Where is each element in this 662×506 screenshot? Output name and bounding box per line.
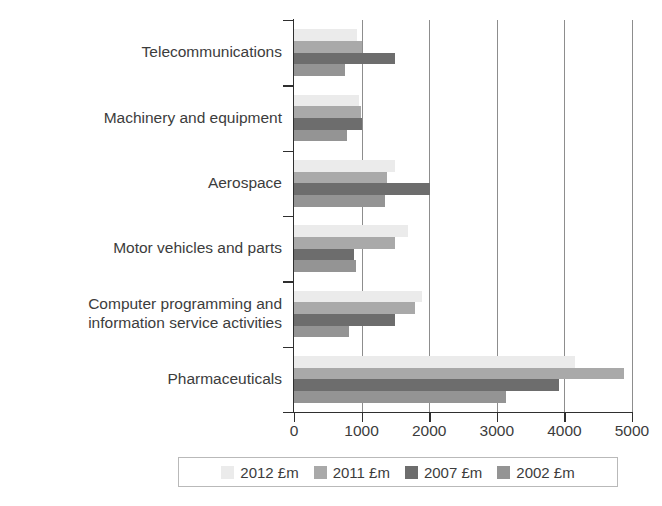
bar xyxy=(294,95,359,107)
chart-legend: 2012 £m2011 £m2007 £m2002 £m xyxy=(178,457,618,487)
gridline-5000 xyxy=(632,20,633,412)
x-tick-2000 xyxy=(429,413,430,422)
bar xyxy=(294,237,395,249)
bar xyxy=(294,391,506,403)
gridline-4000 xyxy=(564,20,565,412)
legend-swatch-icon xyxy=(497,466,510,479)
bar xyxy=(294,29,357,41)
bar xyxy=(294,249,354,261)
legend-item[interactable]: 2012 £m xyxy=(221,464,298,481)
x-axis-line xyxy=(293,412,633,413)
x-tick-0 xyxy=(294,413,295,422)
bar xyxy=(294,53,395,65)
bar xyxy=(294,118,362,130)
legend-item[interactable]: 2011 £m xyxy=(314,464,390,481)
bar xyxy=(294,106,361,118)
bar xyxy=(294,225,408,237)
bar xyxy=(294,160,395,172)
bar xyxy=(294,183,430,195)
category-label: Pharmaceuticals xyxy=(0,369,282,388)
bar-group xyxy=(294,95,632,141)
bar-group xyxy=(294,29,632,75)
y-tick-4 xyxy=(283,281,294,282)
legend-label: 2011 £m xyxy=(333,464,390,481)
bar xyxy=(294,326,349,338)
x-tick-4000 xyxy=(564,413,565,422)
bar xyxy=(294,260,356,272)
legend-swatch-icon xyxy=(221,466,234,479)
plot-area xyxy=(294,20,632,412)
bar xyxy=(294,130,347,142)
y-tick-6 xyxy=(283,412,294,413)
legend-item[interactable]: 2002 £m xyxy=(497,464,574,481)
gridline-3000 xyxy=(497,20,498,412)
bar xyxy=(294,195,385,207)
bar xyxy=(294,41,362,53)
bar xyxy=(294,368,624,380)
bar xyxy=(294,64,345,76)
bar-group xyxy=(294,225,632,271)
legend-swatch-icon xyxy=(405,466,418,479)
bar xyxy=(294,302,415,314)
bar xyxy=(294,314,395,326)
x-tick-label-5000: 5000 xyxy=(592,422,662,440)
bar-chart: TelecommunicationsMachinery and equipmen… xyxy=(0,0,662,506)
bar xyxy=(294,172,387,184)
y-tick-3 xyxy=(283,216,294,217)
bar-group xyxy=(294,356,632,402)
bar xyxy=(294,379,559,391)
y-tick-0 xyxy=(283,20,294,21)
bar-group xyxy=(294,160,632,206)
legend-swatch-icon xyxy=(314,466,327,479)
y-tick-5 xyxy=(283,347,294,348)
y-tick-2 xyxy=(283,151,294,152)
legend-label: 2007 £m xyxy=(424,464,482,481)
x-tick-1000 xyxy=(362,413,363,422)
category-label: Computer programming and information ser… xyxy=(0,294,282,332)
legend-item[interactable]: 2007 £m xyxy=(405,464,482,481)
bar xyxy=(294,356,575,368)
y-tick-1 xyxy=(283,85,294,86)
category-label: Motor vehicles and parts xyxy=(0,238,282,257)
category-label: Aerospace xyxy=(0,173,282,192)
legend-label: 2002 £m xyxy=(516,464,574,481)
gridline-1000 xyxy=(362,20,363,412)
legend-label: 2012 £m xyxy=(240,464,298,481)
x-tick-5000 xyxy=(632,413,633,422)
x-tick-3000 xyxy=(497,413,498,422)
bar-group xyxy=(294,291,632,337)
category-label: Telecommunications xyxy=(0,42,282,61)
bar xyxy=(294,291,422,303)
category-label: Machinery and equipment xyxy=(0,108,282,127)
gridline-2000 xyxy=(429,20,430,412)
